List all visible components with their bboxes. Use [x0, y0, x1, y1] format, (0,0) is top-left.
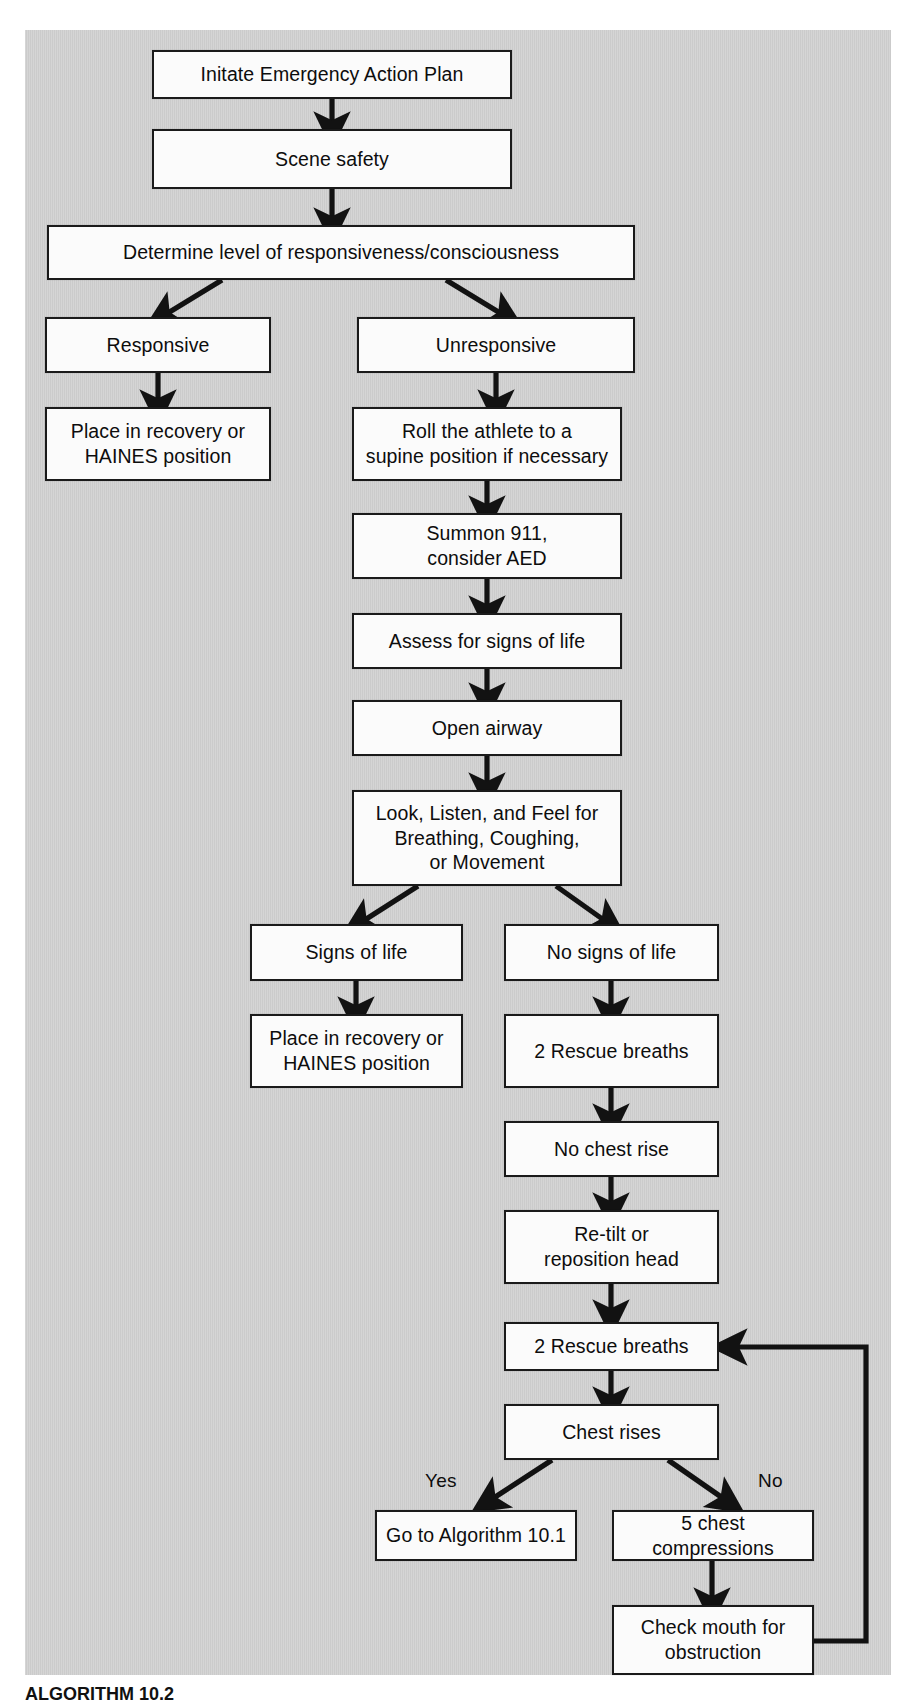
node-no-signs-of-life[interactable]: No signs of life: [504, 924, 719, 981]
node-label: Place in recovery or HAINES position: [71, 419, 245, 468]
node-5-chest-compressions[interactable]: 5 chest compressions: [612, 1510, 814, 1561]
node-label: Determine level of responsiveness/consci…: [123, 240, 559, 265]
node-rescue-breaths-1[interactable]: 2 Rescue breaths: [504, 1014, 719, 1088]
node-label: Scene safety: [275, 147, 389, 172]
node-scene-safety[interactable]: Scene safety: [152, 129, 512, 189]
node-assess-signs-of-life[interactable]: Assess for signs of life: [352, 613, 622, 669]
node-label: Chest rises: [562, 1420, 661, 1445]
node-signs-of-life[interactable]: Signs of life: [250, 924, 463, 981]
node-label: Unresponsive: [436, 333, 556, 358]
node-place-recovery-haines-2[interactable]: Place in recovery or HAINES position: [250, 1014, 463, 1088]
node-determine-responsiveness[interactable]: Determine level of responsiveness/consci…: [47, 225, 635, 280]
node-label: Re-tilt or reposition head: [544, 1222, 679, 1271]
node-no-chest-rise[interactable]: No chest rise: [504, 1121, 719, 1177]
node-label: Signs of life: [305, 940, 407, 965]
node-label: 2 Rescue breaths: [534, 1039, 688, 1064]
node-label: Initate Emergency Action Plan: [200, 62, 463, 87]
node-label: Responsive: [107, 333, 210, 358]
node-look-listen-feel[interactable]: Look, Listen, and Feel for Breathing, Co…: [352, 790, 622, 886]
node-unresponsive[interactable]: Unresponsive: [357, 317, 635, 373]
node-label: Place in recovery or HAINES position: [269, 1026, 443, 1075]
node-label: Roll the athlete to a supine position if…: [366, 419, 608, 468]
node-label: Check mouth for obstruction: [641, 1615, 786, 1664]
node-responsive[interactable]: Responsive: [45, 317, 271, 373]
node-summon-911-aed[interactable]: Summon 911, consider AED: [352, 513, 622, 579]
node-place-recovery-haines-1[interactable]: Place in recovery or HAINES position: [45, 407, 271, 481]
node-label: Go to Algorithm 10.1: [386, 1523, 566, 1548]
figure-caption: ALGORITHM 10.2: [25, 1684, 905, 1704]
node-initiate-eap[interactable]: Initate Emergency Action Plan: [152, 50, 512, 99]
node-rescue-breaths-2[interactable]: 2 Rescue breaths: [504, 1322, 719, 1371]
edge-label-yes: Yes: [425, 1470, 457, 1492]
node-roll-athlete-supine[interactable]: Roll the athlete to a supine position if…: [352, 407, 622, 481]
node-label: 5 chest compressions: [620, 1511, 806, 1560]
node-label: No chest rise: [554, 1137, 669, 1162]
node-label: No signs of life: [547, 940, 677, 965]
node-label: Open airway: [432, 716, 543, 741]
node-label: 2 Rescue breaths: [534, 1334, 688, 1359]
node-check-mouth-obstruction[interactable]: Check mouth for obstruction: [612, 1605, 814, 1675]
node-retilt-reposition-head[interactable]: Re-tilt or reposition head: [504, 1210, 719, 1284]
edge-label-no: No: [758, 1470, 783, 1492]
flowchart-figure: Initate Emergency Action Plan Scene safe…: [0, 0, 917, 1704]
node-label: Look, Listen, and Feel for Breathing, Co…: [376, 801, 599, 875]
node-label: Summon 911, consider AED: [426, 521, 547, 570]
node-go-to-algorithm-10-1[interactable]: Go to Algorithm 10.1: [375, 1510, 577, 1561]
node-open-airway[interactable]: Open airway: [352, 700, 622, 756]
node-label: Assess for signs of life: [389, 629, 585, 654]
node-chest-rises[interactable]: Chest rises: [504, 1404, 719, 1460]
